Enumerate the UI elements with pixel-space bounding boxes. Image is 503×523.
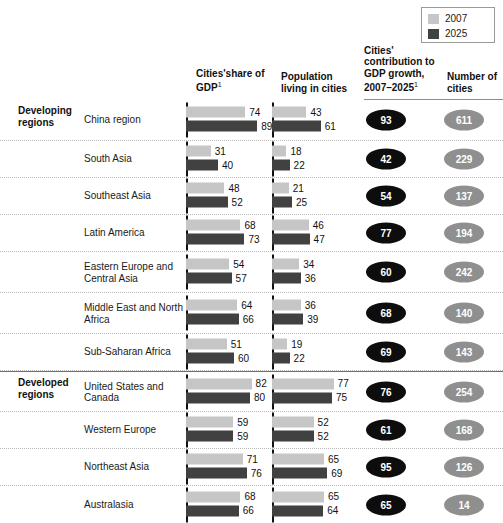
bar-line-population-2025: 22 <box>272 353 305 364</box>
bar-group-population: 3639 <box>272 300 318 327</box>
number-of-cities-badge: 137 <box>444 186 484 207</box>
bar-line-gdp-2025: 66 <box>186 314 254 325</box>
bar-gdp-2007 <box>186 491 240 502</box>
bar-population-2025 <box>272 121 321 132</box>
bar-value-population-2007: 65 <box>328 492 339 502</box>
contribution-badge: 93 <box>366 110 406 131</box>
bar-line-gdp-2025: 60 <box>186 353 249 364</box>
bar-population-2025 <box>272 392 332 403</box>
bar-population-2025 <box>272 431 314 442</box>
bar-population-2007 <box>272 491 324 502</box>
bar-line-population-2007: 43 <box>272 107 336 118</box>
bar-population-2025 <box>272 197 292 208</box>
bar-gdp-2025 <box>186 234 244 245</box>
bar-line-population-2025: 22 <box>272 160 305 171</box>
region-label: Australasia <box>84 499 184 511</box>
bar-value-gdp-2007: 48 <box>228 183 239 193</box>
region-label: Northeast Asia <box>84 461 184 473</box>
header-contribution-text: Cities' contribution to GDP growth, 2007… <box>364 45 435 94</box>
bar-value-population-2025: 47 <box>314 234 325 244</box>
table-row[interactable]: Southeast Asia4852212554137 <box>0 178 503 215</box>
bar-population-2007 <box>272 146 286 157</box>
number-of-cities-badge: 143 <box>444 342 484 363</box>
bar-value-gdp-2025: 80 <box>254 393 265 403</box>
number-of-cities-badge: 254 <box>444 381 484 402</box>
bar-gdp-2007 <box>186 259 229 270</box>
contribution-badge: 77 <box>366 223 406 244</box>
bar-value-population-2025: 22 <box>294 160 305 170</box>
region-label: South Asia <box>84 153 184 165</box>
bar-value-gdp-2025: 89 <box>261 121 272 131</box>
bar-value-population-2025: 69 <box>331 468 342 478</box>
table-row[interactable]: Developed regionsUnited States and Canad… <box>0 371 503 412</box>
bar-value-gdp-2025: 57 <box>236 273 247 283</box>
bar-group-gdp: 6866 <box>186 491 256 518</box>
bar-line-gdp-2007: 68 <box>186 220 260 231</box>
bar-value-gdp-2007: 31 <box>215 146 226 156</box>
bar-value-gdp-2025: 40 <box>222 160 233 170</box>
bar-population-2025 <box>272 353 290 364</box>
bar-value-population-2007: 18 <box>290 146 301 156</box>
bar-line-gdp-2025: 66 <box>186 505 256 516</box>
number-of-cities-badge: 168 <box>444 420 484 441</box>
header-cities-share-of-gdp: Cities'share of GDP1 <box>196 68 276 94</box>
bar-group-population: 5252 <box>272 417 329 444</box>
table-row[interactable]: Northeast Asia7176656995126 <box>0 449 503 486</box>
table-row[interactable]: South Asia3140182242229 <box>0 141 503 178</box>
bar-value-population-2007: 43 <box>310 107 321 117</box>
bar-value-gdp-2007: 54 <box>233 259 244 269</box>
bar-value-population-2025: 22 <box>294 353 305 363</box>
bar-group-gdp: 7489 <box>186 107 272 134</box>
bar-gdp-2025 <box>186 468 247 479</box>
header-population-living-in-cities: Population living in cities <box>281 71 361 94</box>
bar-value-gdp-2007: 59 <box>237 417 248 427</box>
bar-gdp-2007 <box>186 417 233 428</box>
table-row[interactable]: Western Europe5959525261168 <box>0 412 503 449</box>
bar-population-2007 <box>272 259 299 270</box>
bar-line-gdp-2025: 57 <box>186 273 247 284</box>
bar-gdp-2025 <box>186 121 257 132</box>
table-row[interactable]: Australasia686665646514 <box>0 486 503 523</box>
bar-group-gdp: 5959 <box>186 417 248 444</box>
bar-value-population-2025: 75 <box>336 393 347 403</box>
bar-line-population-2025: 75 <box>272 392 349 403</box>
header-cities-share-footnote: 1 <box>218 81 222 88</box>
bar-value-population-2025: 25 <box>296 197 307 207</box>
number-of-cities-badge: 140 <box>444 303 484 324</box>
bar-value-population-2007: 52 <box>318 417 329 427</box>
region-label: Southeast Asia <box>84 190 184 202</box>
contribution-badge: 69 <box>366 342 406 363</box>
header-number-of-cities: Number of cities <box>447 71 503 94</box>
bar-line-population-2007: 36 <box>272 300 318 311</box>
table-row[interactable]: Latin America6873464777194 <box>0 215 503 252</box>
bar-group-population: 7775 <box>272 378 349 405</box>
table-row[interactable]: Eastern Europe and Central Asia545734366… <box>0 252 503 293</box>
bar-group-population: 4361 <box>272 107 336 134</box>
bar-line-gdp-2007: 68 <box>186 491 256 502</box>
bar-line-population-2007: 46 <box>272 220 325 231</box>
bar-value-gdp-2025: 60 <box>238 353 249 363</box>
bar-population-2007 <box>272 107 306 118</box>
bar-group-gdp: 3140 <box>186 146 233 173</box>
region-label: Middle East and North Africa <box>84 302 184 325</box>
bar-line-gdp-2007: 59 <box>186 417 248 428</box>
table-row[interactable]: Sub-Saharan Africa5160192269143 <box>0 334 503 371</box>
bar-line-gdp-2007: 51 <box>186 339 249 350</box>
bar-population-2007 <box>272 417 314 428</box>
bar-population-2025 <box>272 234 310 245</box>
bar-line-population-2007: 19 <box>272 339 305 350</box>
region-label: Sub-Saharan Africa <box>84 346 184 358</box>
bar-value-gdp-2007: 68 <box>244 492 255 502</box>
table-row[interactable]: Developing regionsChina region7489436193… <box>0 100 503 141</box>
header-cities-share-text: Cities'share of GDP <box>196 68 265 94</box>
header-contribution-to-gdp-growth: Cities' contribution to GDP growth, 2007… <box>364 45 442 94</box>
bar-gdp-2025 <box>186 160 218 171</box>
bar-line-gdp-2025: 76 <box>186 468 262 479</box>
bar-group-gdp: 4852 <box>186 183 243 210</box>
bar-value-population-2007: 65 <box>328 454 339 464</box>
bar-group-gdp: 6873 <box>186 220 260 247</box>
bar-gdp-2007 <box>186 220 240 231</box>
bar-line-population-2025: 69 <box>272 468 342 479</box>
group-label: Developing regions <box>18 105 90 128</box>
table-row[interactable]: Middle East and North Africa646636396814… <box>0 293 503 334</box>
